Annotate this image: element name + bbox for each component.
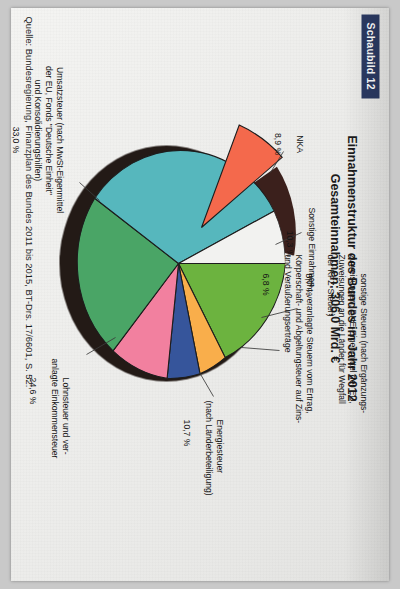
label-energiesteuer-text: Energiesteuer (nach Länderbeteiligung) — [203, 400, 224, 495]
label-nicht-veranlagte-value: 6,8 % — [260, 273, 270, 295]
label-lohnsteuer: Lohnsteuer und ver- anlagte Einkommenste… — [15, 358, 81, 528]
pie-chart: NKA 8,9 % Sonstige Einnahmen 10,3 % sons… — [31, 104, 331, 422]
label-lohnsteuer-value: 24,6 % — [27, 377, 37, 404]
label-energiesteuer-value: 10,7 % — [181, 419, 191, 446]
label-nicht-veranlagte-steuern: nicht veranlagte Steuern vom Ertrag, Kör… — [248, 254, 325, 454]
label-umsatzsteuer: Umsatzsteuer (nach MwSt-Eigenmittel der … — [11, 30, 75, 230]
label-umsatzsteuer-text: Umsatzsteuer (nach MwSt-Eigenmittel der … — [32, 66, 64, 213]
label-nka-value: 8,9 % — [272, 133, 282, 155]
label-lohnsteuer-text: Lohnsteuer und ver- anlagte Einkommenste… — [49, 358, 70, 458]
label-nicht-veranlagte-text: nicht veranlagte Steuern vom Ertrag, Kör… — [282, 254, 314, 423]
label-nka: NKA 8,9 % — [260, 102, 315, 166]
label-sonstige-einnahmen-value: 10,3 % — [284, 230, 294, 257]
label-sonstige-steuern-text: sonstige Steuern (nach Ergänzungs- zuwei… — [325, 254, 368, 413]
scanned-page: Schaubild 12 Einnahmenstruktur des Bunde… — [11, 8, 389, 581]
label-umsatzsteuer-value: 33,0 % — [11, 126, 20, 153]
figure-canvas: Schaubild 12 Einnahmenstruktur des Bunde… — [11, 8, 389, 581]
label-energiesteuer: Energiesteuer (nach Länderbeteiligung) 1… — [169, 400, 235, 520]
label-nka-text: NKA — [294, 135, 304, 153]
schaubild-badge: Schaubild 12 — [361, 14, 379, 98]
